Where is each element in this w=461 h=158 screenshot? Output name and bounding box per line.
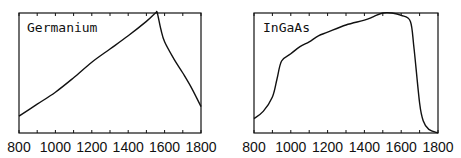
- chart-canvas: Germanium 80010001200140016001800 InGaAs…: [0, 0, 461, 158]
- x-tick-label: 1000: [275, 139, 306, 155]
- x-tick-label: 1200: [76, 139, 107, 155]
- ingaas-label: InGaAs: [263, 20, 310, 35]
- x-tick-label: 800: [7, 139, 31, 155]
- x-tick-label: 1000: [40, 139, 71, 155]
- x-tick-label: 1600: [149, 139, 180, 155]
- x-tick-label: 1400: [113, 139, 144, 155]
- x-tick-label: 1600: [386, 139, 417, 155]
- x-tick-label: 1800: [422, 139, 453, 155]
- germanium-label: Germanium: [27, 20, 98, 35]
- germanium-panel: Germanium 80010001200140016001800: [7, 11, 216, 155]
- x-tick-label: 800: [242, 139, 266, 155]
- x-tick-label: 1200: [312, 139, 343, 155]
- germanium-x-axis-labels: 80010001200140016001800: [7, 139, 216, 155]
- ingaas-x-axis-labels: 80010001200140016001800: [242, 139, 453, 155]
- ingaas-panel: InGaAs 80010001200140016001800: [242, 13, 453, 155]
- x-tick-label: 1400: [349, 139, 380, 155]
- x-tick-label: 1800: [185, 139, 216, 155]
